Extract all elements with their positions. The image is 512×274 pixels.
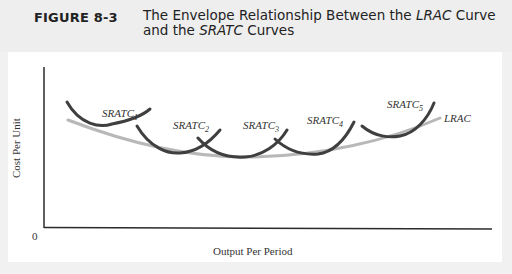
origin-label: 0 — [32, 230, 38, 242]
x-axis-label: Output Per Period — [213, 245, 293, 257]
sratc3-label: SRATC3 — [243, 119, 279, 134]
sratc2-label: SRATC2 — [173, 119, 209, 134]
sratc5-label: SRATC5 — [387, 98, 423, 113]
sratc4-label: SRATC4 — [307, 114, 343, 129]
x-axis — [44, 228, 492, 230]
y-axis-label: Cost Per Unit — [10, 118, 22, 178]
chart-svg: SRATC1 SRATC2 SRATC3 SRATC4 SRATC5 LRAC … — [0, 0, 512, 274]
lrac-label: LRAC — [443, 112, 472, 124]
sratc3-curve — [198, 130, 287, 157]
